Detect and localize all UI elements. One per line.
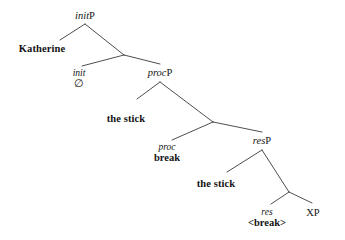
tree-edge: [262, 150, 289, 192]
tree-edge: [124, 55, 160, 64]
tree-node-katherine: Katherine: [19, 44, 65, 55]
syntax-tree-figure: initPKatherineinit∅procPthe stickprocbre…: [0, 0, 345, 240]
tree-edge: [213, 122, 262, 132]
node-projection: P: [167, 67, 173, 78]
head-spellout: ∅: [73, 79, 86, 90]
tree-edge: [289, 192, 312, 203]
node-category: res: [253, 135, 265, 146]
tree-edge: [160, 82, 213, 122]
tree-edge: [271, 192, 289, 204]
tree-node-proc-head: procbreak: [154, 143, 180, 163]
tree-node-res-head: res<break>: [248, 208, 286, 228]
tree-edge: [137, 82, 160, 99]
node-projection: P: [265, 135, 271, 146]
tree-edge: [172, 122, 213, 140]
node-projection: P: [89, 10, 95, 21]
tree-edge: [60, 24, 85, 40]
tree-edge: [82, 55, 124, 66]
tree-edge: [85, 24, 124, 55]
tree-node-init-head: init∅: [73, 69, 86, 89]
node-category: proc: [148, 67, 167, 78]
tree-branch-lines: [0, 0, 345, 240]
tree-edge: [227, 150, 262, 172]
tree-node-xp: XP: [306, 208, 319, 219]
tree-node-initP: initP: [75, 11, 95, 22]
head-spellout: <break>: [248, 218, 286, 229]
node-category: init: [75, 10, 89, 21]
head-spellout: break: [154, 153, 180, 164]
tree-node-procP: procP: [148, 68, 173, 79]
tree-node-resP: resP: [253, 136, 271, 147]
tree-node-the-stick-res: the stick: [197, 179, 236, 190]
tree-node-the-stick-proc: the stick: [107, 114, 146, 125]
